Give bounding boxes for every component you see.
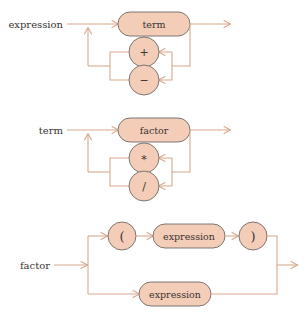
rule-label-factor: factor (20, 260, 50, 271)
node-factor-label: factor (140, 125, 169, 136)
op-lower-right-wire (159, 66, 172, 80)
railroad-diagram-factor: ( expression ) expression factor (0, 212, 304, 317)
node-expression-plain-label: expression (149, 289, 201, 300)
op-upper-right-wire (159, 52, 172, 66)
op-lower-left-wire (110, 66, 129, 80)
op-lower-right-wire (159, 172, 172, 186)
node-expression-parenthesized-label: expression (163, 231, 215, 242)
op-upper-left-wire (110, 52, 129, 66)
rule-label-expression: expression (8, 19, 63, 30)
rule-label-term: term (39, 125, 64, 136)
op-lower-left-wire (110, 172, 129, 186)
node-right-paren-label: ) (250, 229, 255, 244)
railroad-diagram-term: factor * / term (0, 106, 304, 212)
railroad-diagram-expression: term + − expression (0, 0, 304, 106)
node-operator-minus-label: − (139, 74, 148, 87)
op-upper-right-wire (159, 158, 172, 172)
lower-branch-join-wire (211, 265, 277, 294)
node-operator-multiply-label: * (141, 153, 147, 166)
node-operator-divide-label: / (142, 180, 146, 193)
upper-branch-join-wire (267, 236, 277, 265)
op-upper-left-wire (110, 158, 129, 172)
node-operator-plus-label: + (139, 46, 148, 59)
node-term-label: term (143, 19, 166, 30)
syntax-diagram-page: term + − expression factor (0, 0, 304, 317)
node-left-paren-label: ( (119, 229, 124, 244)
